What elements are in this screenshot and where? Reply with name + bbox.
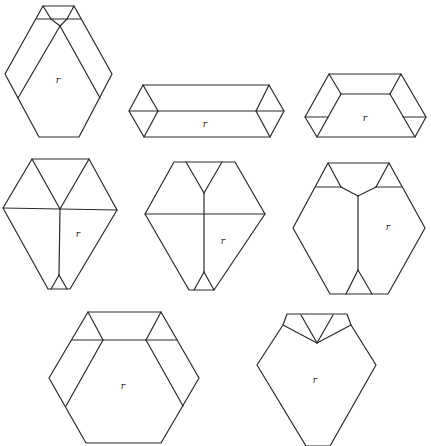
shape-edge — [67, 6, 74, 19]
shape-edge — [88, 312, 103, 340]
shape-edge — [390, 94, 415, 137]
shape-edge — [66, 340, 103, 406]
shape-edge — [60, 26, 100, 98]
shape-edge — [59, 275, 67, 289]
shape-outline — [145, 162, 265, 290]
shape-edge — [146, 340, 183, 406]
region-label: r — [313, 375, 318, 385]
shape-4: r — [3, 159, 117, 289]
shape-edge — [390, 74, 401, 94]
shape-edge — [256, 111, 270, 137]
shape-edge — [60, 19, 67, 26]
shape-edge — [18, 26, 60, 98]
shape-outline — [293, 163, 425, 294]
shape-5: r — [145, 162, 265, 290]
crystal-diagrams: rrrrrrrr — [0, 0, 431, 446]
shape-edge — [51, 275, 59, 289]
shape-3: r — [305, 74, 426, 137]
shape-edge — [317, 94, 341, 137]
shape-edge — [32, 159, 60, 209]
shape-edge — [341, 187, 358, 196]
shape-edge — [186, 162, 204, 193]
shape-edge — [358, 270, 372, 294]
shape-1: r — [5, 6, 112, 137]
region-label: r — [203, 119, 208, 129]
shape-edge — [204, 162, 222, 193]
shape-edge — [51, 19, 60, 26]
region-label: r — [76, 229, 81, 239]
shape-outline — [305, 74, 426, 137]
shape-6: r — [293, 163, 425, 294]
shape-edge — [256, 85, 269, 111]
region-label: r — [386, 222, 391, 232]
figure-canvas: rrrrrrrr — [0, 0, 431, 446]
shape-7: r — [49, 312, 199, 443]
shape-edge — [43, 6, 51, 19]
shape-edge — [60, 159, 89, 209]
region-label: r — [221, 236, 226, 246]
shape-2: r — [129, 85, 284, 137]
shape-edge — [204, 272, 214, 290]
shape-edge — [358, 187, 376, 196]
shape-outline — [5, 6, 112, 137]
region-label: r — [56, 75, 61, 85]
shape-edge — [329, 74, 341, 94]
shape-edge — [144, 111, 158, 137]
region-label: r — [363, 113, 368, 123]
shape-edge — [143, 85, 158, 111]
shape-outline — [49, 312, 199, 443]
shape-edge — [376, 163, 389, 187]
shape-edge — [59, 209, 60, 275]
shape-edge — [146, 312, 161, 340]
region-label: r — [121, 381, 126, 391]
shape-edge — [194, 272, 204, 290]
shape-edge — [328, 163, 341, 187]
shape-edge — [346, 270, 358, 294]
shape-8: r — [257, 314, 376, 446]
